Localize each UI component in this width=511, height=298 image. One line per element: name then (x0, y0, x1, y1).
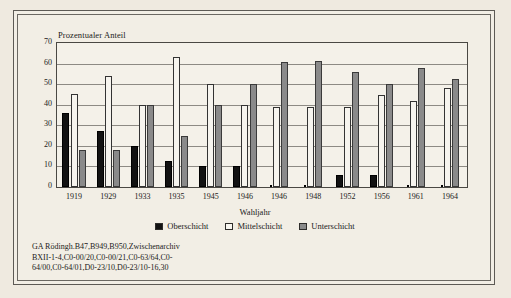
figure-frame-outer: Prozentualer Anteil 706050403020100 1919… (13, 10, 495, 285)
y-tick-label: 20 (30, 141, 52, 149)
bar[interactable] (344, 107, 351, 187)
y-tick-label: 40 (30, 100, 52, 108)
caption-line: BXII-1-4,C0-00/20,C0-00/21,C0-63/64,C0- (32, 253, 452, 264)
bar[interactable] (386, 84, 393, 187)
bar[interactable] (250, 84, 257, 187)
bar-group (399, 43, 433, 187)
legend-label: Mittelschicht (237, 221, 282, 231)
legend-swatch-icon (225, 223, 233, 230)
y-tick-label: 50 (30, 79, 52, 87)
y-axis-ticks: 706050403020100 (28, 42, 52, 188)
legend-item[interactable]: Unterschicht (299, 221, 354, 231)
bar[interactable] (62, 113, 69, 187)
bar-group (228, 43, 262, 187)
x-tick-label: 1945 (194, 192, 228, 201)
bar-group (433, 43, 467, 187)
x-tick-label: 1961 (399, 192, 433, 201)
x-tick-label: 1964 (433, 192, 467, 201)
bar[interactable] (281, 62, 288, 187)
bar[interactable] (97, 131, 104, 187)
bar[interactable] (147, 105, 154, 187)
source-caption: GA Rödingh.B47,B949,B950,ZwischenarchivB… (32, 242, 452, 274)
bar[interactable] (336, 175, 343, 187)
bar[interactable] (105, 76, 112, 187)
x-tick-label: 1946 (262, 192, 296, 201)
scanned-page: Prozentualer Anteil 706050403020100 1919… (0, 0, 511, 298)
x-tick-label: 1946 (228, 192, 262, 201)
bar[interactable] (165, 161, 172, 187)
legend-swatch-icon (155, 223, 163, 230)
caption-line: 64/00,C0-64/01,D0-23/10,D0-23/10-16,30 (32, 263, 452, 274)
x-tick-label: 1935 (160, 192, 194, 201)
bar[interactable] (307, 107, 314, 187)
bar[interactable] (233, 166, 240, 187)
bar[interactable] (315, 61, 322, 188)
bar[interactable] (418, 68, 425, 187)
bar[interactable] (407, 185, 409, 187)
bar[interactable] (181, 136, 188, 187)
chart-legend: OberschichtMittelschichtUnterschicht (14, 221, 496, 231)
bar-group (296, 43, 330, 187)
y-tick-label: 70 (30, 38, 52, 46)
bar[interactable] (215, 105, 222, 187)
bar[interactable] (352, 72, 359, 187)
bar-group (365, 43, 399, 187)
bar[interactable] (441, 185, 443, 187)
bar[interactable] (79, 150, 86, 187)
y-tick-label: 10 (30, 161, 52, 169)
legend-swatch-icon (299, 223, 307, 230)
bar[interactable] (378, 95, 385, 187)
bar[interactable] (370, 175, 377, 187)
bar[interactable] (452, 79, 459, 187)
bar-group (262, 43, 296, 187)
x-tick-label: 1956 (365, 192, 399, 201)
x-tick-label: 1952 (330, 192, 364, 201)
bar[interactable] (304, 185, 306, 187)
x-tick-label: 1933 (125, 192, 159, 201)
legend-item[interactable]: Oberschicht (155, 221, 208, 231)
bar-group (194, 43, 228, 187)
x-axis-ticks: 1919192919331935194519461946194819521956… (57, 192, 467, 201)
bar-groups (57, 43, 467, 187)
caption-line: GA Rödingh.B47,B949,B950,Zwischenarchiv (32, 242, 452, 253)
bar[interactable] (270, 185, 272, 187)
x-axis-label: Wahljahr (14, 207, 496, 217)
bar[interactable] (113, 150, 120, 187)
bar[interactable] (410, 101, 417, 187)
x-tick-label: 1929 (91, 192, 125, 201)
bar[interactable] (131, 146, 138, 187)
bar-group (91, 43, 125, 187)
bar[interactable] (207, 84, 214, 187)
legend-label: Unterschicht (311, 221, 354, 231)
y-tick-label: 30 (30, 120, 52, 128)
bar-group (57, 43, 91, 187)
bar-group (330, 43, 364, 187)
bar[interactable] (71, 94, 78, 187)
bar[interactable] (273, 107, 280, 187)
bar[interactable] (139, 105, 146, 187)
x-tick-label: 1919 (57, 192, 91, 201)
bar[interactable] (199, 166, 206, 187)
bar-group (125, 43, 159, 187)
legend-label: Oberschicht (167, 221, 208, 231)
bar-group (160, 43, 194, 187)
legend-item[interactable]: Mittelschicht (225, 221, 282, 231)
bar[interactable] (241, 105, 248, 187)
bar-chart: Prozentualer Anteil 706050403020100 1919… (14, 11, 496, 226)
y-tick-label: 60 (30, 59, 52, 67)
bar[interactable] (173, 57, 180, 187)
bar[interactable] (444, 88, 451, 187)
y-axis-label: Prozentualer Anteil (58, 30, 126, 40)
x-tick-label: 1948 (296, 192, 330, 201)
y-tick-label: 0 (30, 182, 52, 190)
